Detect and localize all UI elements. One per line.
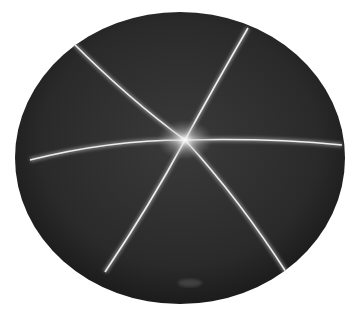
star-sapphire-photo xyxy=(0,0,355,311)
star-center-glow xyxy=(157,120,213,160)
